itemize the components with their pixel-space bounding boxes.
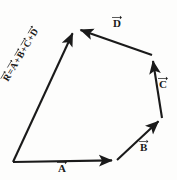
vector-label-A: A — [58, 163, 66, 174]
vector-label-B: B — [140, 142, 147, 153]
vector-label-B-text: B — [140, 141, 147, 153]
vector-B-line — [117, 121, 159, 160]
vector-D-line — [81, 30, 153, 55]
vector-label-D: D — [113, 18, 121, 29]
vector-label-A-text: A — [58, 162, 66, 174]
vector-label-C-text: C — [159, 78, 167, 90]
vector-label-C: C — [159, 79, 167, 90]
vector-arrow-overbar-A — [57, 160, 67, 164]
vector-diagram-figure: A B C — [0, 0, 177, 180]
vector-arrow-overbar-B — [139, 139, 148, 143]
vector-arrow-overbar-C — [158, 76, 168, 80]
vector-arrow-overbar-D — [112, 15, 122, 19]
vector-label-D-text: D — [113, 17, 121, 29]
vector-polygon-svg — [0, 0, 177, 180]
